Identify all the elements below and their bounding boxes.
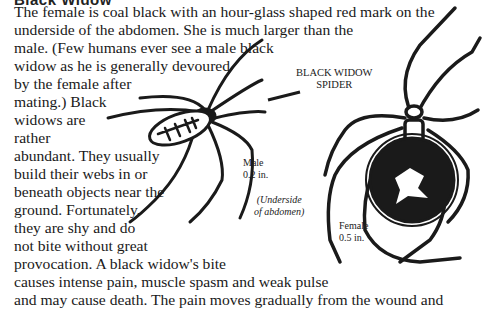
male-caption: Male	[243, 157, 268, 169]
female-label: Female 0.5 in.	[339, 220, 368, 244]
title-line: SPIDER	[296, 79, 373, 91]
underside-caption: (Underside	[254, 194, 304, 206]
female-size: 0.5 in.	[339, 232, 368, 244]
underside-label: (Underside of abdomen)	[254, 194, 304, 218]
illustration-title: BLACK WIDOW SPIDER	[296, 67, 373, 91]
male-spider-drawing	[108, 40, 265, 222]
male-size: 0.2 in.	[243, 169, 268, 181]
female-caption: Female	[339, 220, 368, 232]
underside-caption: of abdomen)	[254, 206, 304, 218]
title-line: BLACK WIDOW	[296, 67, 373, 79]
male-label: Male 0.2 in.	[243, 157, 268, 181]
text-line: and may cause death. The pain moves grad…	[14, 291, 443, 309]
